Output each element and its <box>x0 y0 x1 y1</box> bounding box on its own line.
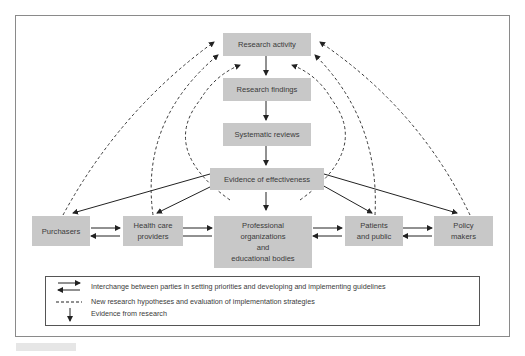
legend-interchange-label: Interchange between parties in setting p… <box>91 282 385 291</box>
dashed-patients-to-research <box>315 55 375 215</box>
figure-caption-fragment <box>16 343 76 351</box>
arrow-evidence-to-patients <box>322 185 372 213</box>
node-research-activity: Research activity <box>223 33 311 56</box>
node-professional-organizations: Professional organizations and education… <box>214 216 312 268</box>
dashed-purchasers-to-research <box>63 42 214 215</box>
node-purchasers: Purchasers <box>32 216 90 246</box>
node-health-care-providers: Health care providers <box>123 216 183 246</box>
legend-evidence-label: Evidence from research <box>91 309 167 318</box>
node-systematic-reviews: Systematic reviews <box>223 123 311 146</box>
node-research-findings: Research findings <box>223 78 311 101</box>
arrow-evidence-to-purchasers <box>73 174 210 213</box>
arrow-evidence-to-providers <box>157 186 212 213</box>
dashed-policy-to-research <box>320 42 470 215</box>
node-patients-and-public: Patients and public <box>345 216 403 246</box>
arrow-evidence-to-policy <box>324 174 457 213</box>
dashed-providers-to-research <box>151 55 218 215</box>
node-evidence-of-effectiveness: Evidence of effectiveness <box>210 168 324 190</box>
node-policy-makers: Policy makers <box>434 216 493 246</box>
legend-dashed-label: New research hypotheses and evaluation o… <box>91 297 315 306</box>
